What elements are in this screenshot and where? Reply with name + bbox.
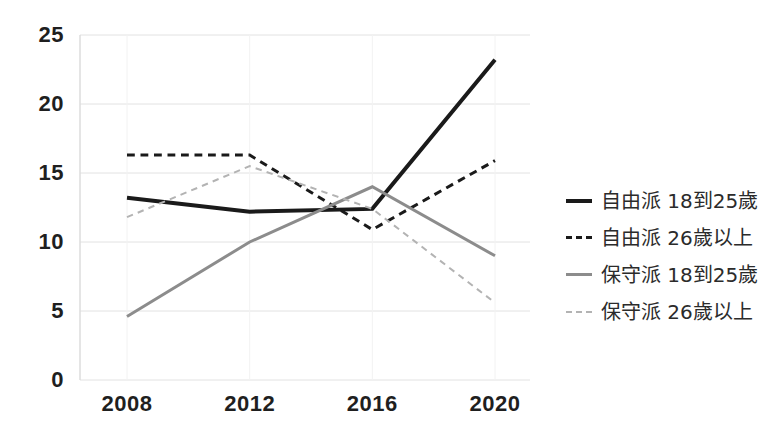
y-tick-label-10: 10 xyxy=(20,231,64,253)
legend-item-1[interactable]: 自由派 26歲以上 xyxy=(566,219,783,256)
y-tick-label-15: 15 xyxy=(20,162,64,184)
gridlines xyxy=(80,35,530,380)
y-tick-label-25: 25 xyxy=(20,24,64,46)
x-tick-label-2016: 2016 xyxy=(327,393,417,415)
y-tick-label-20: 20 xyxy=(20,93,64,115)
series-line-2 xyxy=(127,187,495,317)
legend-item-0[interactable]: 自由派 18到25歲 xyxy=(566,182,783,219)
x-axis-tick-labels: 2008201220162020 xyxy=(0,380,560,432)
legend-swatch-icon-2 xyxy=(566,269,592,281)
plot-svg xyxy=(0,0,560,432)
series-line-1 xyxy=(127,155,495,230)
legend-label-0: 自由派 18到25歲 xyxy=(601,190,758,212)
legend-item-3[interactable]: 保守派 26歲以上 xyxy=(566,293,783,330)
y-tick-label-5: 5 xyxy=(20,300,64,322)
line-chart: 2520151050 2008201220162020 自由派 18到25歲自由… xyxy=(0,0,783,432)
series-lines xyxy=(127,60,495,317)
legend-swatch-icon-3 xyxy=(566,306,592,318)
x-tick-label-2020: 2020 xyxy=(450,393,540,415)
plot-area xyxy=(0,0,560,432)
x-tick-label-2012: 2012 xyxy=(205,393,295,415)
y-axis-tick-labels: 2520151050 xyxy=(14,0,64,432)
legend-item-2[interactable]: 保守派 18到25歲 xyxy=(566,256,783,293)
legend-label-1: 自由派 26歲以上 xyxy=(601,227,753,249)
legend-label-3: 保守派 26歲以上 xyxy=(601,301,753,323)
x-tick-label-2008: 2008 xyxy=(82,393,172,415)
chart-legend: 自由派 18到25歲自由派 26歲以上保守派 18到25歲保守派 26歲以上 xyxy=(566,182,783,330)
legend-swatch-icon-0 xyxy=(566,195,592,207)
legend-swatch-icon-1 xyxy=(566,232,592,244)
legend-label-2: 保守派 18到25歲 xyxy=(601,264,758,286)
series-line-0 xyxy=(127,60,495,212)
